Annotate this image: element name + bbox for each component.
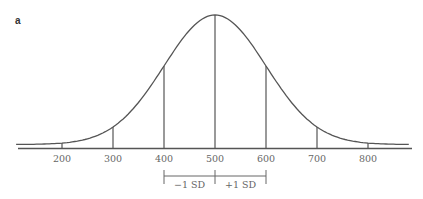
tick-label-500: 500 (206, 153, 224, 164)
plus-one-sd-label: +1 SD (225, 179, 257, 190)
tick-label-300: 300 (104, 153, 122, 164)
tick-label-400: 400 (155, 153, 173, 164)
normal-curve-chart: 200300400500600700800 −1 SD+1 SD (0, 0, 423, 199)
tick-label-800: 800 (359, 153, 377, 164)
tick-label-200: 200 (53, 153, 71, 164)
sd-vertical-lines (62, 15, 368, 149)
sd-bracket: −1 SD+1 SD (164, 170, 266, 190)
x-tick-labels: 200300400500600700800 (53, 153, 377, 164)
minus-one-sd-label: −1 SD (174, 179, 206, 190)
bell-curve (16, 15, 409, 144)
tick-label-700: 700 (308, 153, 326, 164)
tick-label-600: 600 (257, 153, 275, 164)
